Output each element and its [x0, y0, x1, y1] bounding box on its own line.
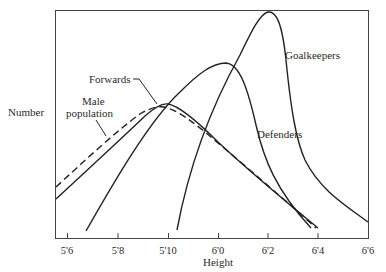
plot-frame — [56, 11, 369, 239]
y-axis-label: Number — [8, 106, 44, 118]
tick-label: 5'10 — [159, 245, 177, 256]
series-male-population — [56, 107, 316, 228]
defenders-label: Defenders — [257, 128, 302, 140]
tick-label: 6'2 — [262, 245, 274, 256]
x-axis-label: Height — [203, 256, 233, 268]
male-population-pointer — [96, 120, 106, 136]
height-distribution-chart: 5'6 5'8 5'10 6'0 6'2 6'4 6'6 Height Numb… — [0, 0, 386, 272]
tick-label: 5'8 — [112, 245, 124, 256]
male-population-label-line2: population — [66, 107, 114, 119]
tick-label: 6'6 — [362, 245, 374, 256]
tick-label: 6'4 — [312, 245, 325, 256]
male-population-label-line1: Male — [82, 95, 105, 107]
series-forwards — [56, 104, 318, 228]
tick-label: 5'6 — [61, 245, 73, 256]
curves — [56, 12, 368, 231]
series-goalkeepers — [177, 12, 368, 230]
forwards-pointer — [133, 79, 157, 104]
forwards-label: Forwards — [89, 73, 131, 85]
x-axis-tick-labels: 5'6 5'8 5'10 6'0 6'2 6'4 6'6 — [61, 245, 374, 256]
x-axis-ticks — [68, 233, 319, 238]
goalkeepers-label: Goalkeepers — [285, 49, 340, 61]
tick-label: 6'0 — [212, 245, 224, 256]
